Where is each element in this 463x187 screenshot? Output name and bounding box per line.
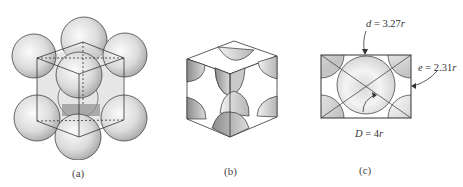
label-e: e = 2.31r	[418, 62, 456, 73]
panel-c: d = 3.27r e = 2.31r D = 4r (c)	[300, 0, 463, 160]
caption-a: (a)	[72, 167, 84, 179]
label-D: D = 4r	[355, 128, 383, 139]
reduced-sphere-unit-cell-diagram	[160, 0, 310, 160]
hard-sphere-unit-cell-diagram	[0, 0, 160, 160]
panel-b: (b)	[160, 0, 310, 160]
caption-b: (b)	[224, 165, 237, 177]
label-d: d = 3.27r	[366, 18, 405, 29]
caption-c: (c)	[359, 164, 371, 176]
panel-a: (a)	[0, 0, 160, 160]
